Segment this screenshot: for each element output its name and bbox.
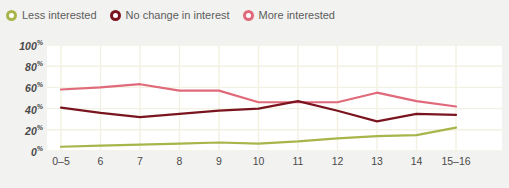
- x-axis-tick-label: 11: [293, 156, 304, 167]
- legend-item-label: More interested: [259, 10, 335, 21]
- legend-item[interactable]: More interested: [243, 10, 335, 21]
- x-axis-tick-label: 7: [137, 156, 143, 167]
- x-axis-tick-label: 14: [411, 156, 423, 167]
- y-axis-tick-label: 0%: [31, 145, 43, 157]
- x-axis-tick-label: 10: [253, 156, 265, 167]
- x-axis-tick-label: 13: [371, 156, 383, 167]
- x-axis-tick-label: 15–16: [441, 156, 470, 167]
- y-axis-tick-label: 100%: [19, 39, 43, 51]
- ring-marker-icon: [6, 10, 17, 21]
- legend-item[interactable]: Less interested: [6, 10, 97, 21]
- x-axis-tick-label: 8: [177, 156, 183, 167]
- legend-item[interactable]: No change in interest: [110, 10, 230, 21]
- plot-area: [47, 45, 502, 151]
- y-axis-tick-label: 40%: [25, 103, 43, 115]
- y-axis-tick-label: 20%: [25, 124, 43, 136]
- y-axis-tick-label: 60%: [25, 81, 43, 93]
- interest-change-line-chart: Less interestedNo change in interestMore…: [0, 0, 509, 188]
- chart-legend: Less interestedNo change in interestMore…: [6, 5, 335, 25]
- legend-item-label: No change in interest: [126, 10, 230, 21]
- x-axis-tick-label: 0–5: [52, 156, 70, 167]
- x-axis-tick-label: 6: [98, 156, 104, 167]
- y-axis: 100%80%60%40%20%0%: [0, 45, 43, 151]
- x-axis-tick-label: 9: [216, 156, 222, 167]
- ring-marker-icon: [110, 10, 121, 21]
- x-axis: 0–56789101112131415–16: [47, 156, 502, 172]
- plot-svg: [47, 45, 502, 151]
- x-axis-tick-label: 12: [332, 156, 344, 167]
- ring-marker-icon: [243, 10, 254, 21]
- legend-item-label: Less interested: [22, 10, 97, 21]
- y-axis-tick-label: 80%: [25, 60, 43, 72]
